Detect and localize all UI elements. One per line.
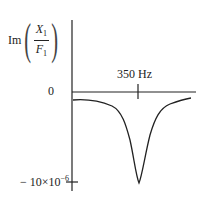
- ylabel-denominator: F1: [36, 41, 47, 58]
- ylabel-numerator: X1: [34, 22, 49, 40]
- response-curve: [73, 98, 191, 183]
- y-tick-label-neg: − 10×10−6: [20, 174, 69, 190]
- right-paren: ): [51, 18, 58, 62]
- left-paren: (: [25, 18, 32, 62]
- x-tick-label-350hz: 350 Hz: [117, 67, 152, 82]
- y-axis-label: Im ( X1 F1 ): [8, 12, 60, 68]
- ylabel-fraction: X1 F1: [34, 22, 49, 58]
- y-tick-label-zero: 0: [48, 84, 54, 99]
- ylabel-prefix: Im: [8, 33, 21, 48]
